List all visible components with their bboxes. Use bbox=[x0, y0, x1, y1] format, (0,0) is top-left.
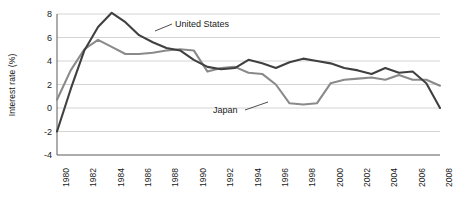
series-line-japan bbox=[57, 40, 440, 105]
interest-rate-line-chart: Interest rate (%) 8 6 4 2 0 -2 -4 bbox=[0, 0, 458, 205]
x-tick-label: 1986 bbox=[143, 168, 153, 187]
annotation-united-states: United States bbox=[175, 19, 229, 29]
x-tick-label: 2002 bbox=[362, 168, 372, 187]
x-tick-label: 1998 bbox=[307, 168, 317, 187]
x-tick-label: 1992 bbox=[225, 168, 235, 187]
x-tick-label: 2006 bbox=[417, 168, 427, 187]
x-tick-label: 1984 bbox=[116, 168, 126, 187]
series-lines bbox=[57, 13, 440, 132]
x-tick-label: 1994 bbox=[253, 168, 263, 187]
annotation-label-japan: Japan bbox=[213, 105, 238, 115]
x-tick-label: 1990 bbox=[198, 168, 208, 187]
x-tick-label: 1996 bbox=[280, 168, 290, 187]
x-tick-label: 1988 bbox=[170, 168, 180, 187]
x-tick-label: 2000 bbox=[335, 168, 345, 187]
x-tick-label: 2004 bbox=[389, 168, 399, 187]
x-tick-label: 2008 bbox=[444, 168, 454, 187]
x-tick-label: 1980 bbox=[61, 168, 71, 187]
annotation-label-united-states: United States bbox=[175, 19, 229, 29]
x-tick-label: 1982 bbox=[88, 168, 98, 187]
annotation-japan: Japan bbox=[213, 105, 238, 115]
